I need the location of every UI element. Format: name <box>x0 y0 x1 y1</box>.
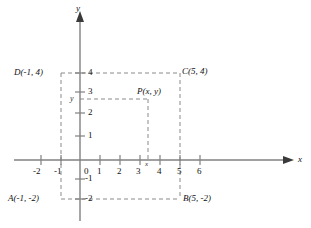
y-tick-label-2: 2 <box>88 108 93 117</box>
y-tick-label--2: -2 <box>85 194 93 203</box>
y-tick-label-4: 4 <box>88 68 93 77</box>
point-label-b: B(5, -2) <box>183 194 211 203</box>
x-axis-label: x <box>298 155 302 164</box>
point-label-p: P(x, y) <box>137 87 161 96</box>
x-tick-label-1: 1 <box>97 167 102 176</box>
x-tick-label-4: 4 <box>157 167 162 176</box>
y-tick-label-3: 3 <box>88 87 93 96</box>
point-label-a: A(-1, -2) <box>8 194 39 203</box>
point-label-c: C(5, 4) <box>182 67 208 76</box>
y-axis-label: y <box>76 4 80 13</box>
x-tick-label-2: 2 <box>117 167 122 176</box>
x-variable-mark: x <box>145 161 148 168</box>
y-tick-label-1: 1 <box>88 131 93 140</box>
x-tick-label-3: 3 <box>136 167 141 176</box>
point-label-d: D(-1, 4) <box>14 68 43 77</box>
x-tick-label-5: 5 <box>177 167 182 176</box>
x-tick-label--2: -2 <box>33 167 41 176</box>
y-tick-label--1: -1 <box>85 174 93 183</box>
x-tick-label-6: 6 <box>197 167 202 176</box>
x-axis-arrowhead <box>283 156 294 164</box>
coordinate-plane-figure <box>0 0 311 228</box>
x-tick-label--1: -1 <box>54 167 62 176</box>
y-variable-mark: y <box>70 95 74 103</box>
